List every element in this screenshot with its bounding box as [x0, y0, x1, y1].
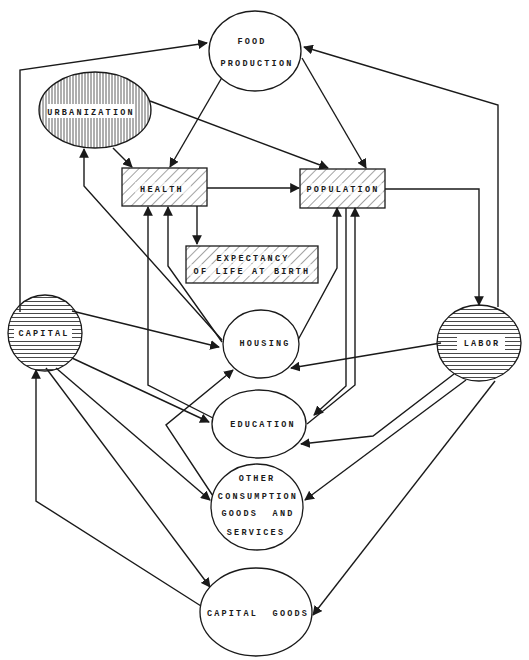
- node-labor[interactable]: LABOR: [437, 305, 521, 381]
- edge-labor-to-education: [301, 374, 454, 444]
- edge-education-to-health: [148, 207, 213, 418]
- edge-population-to-education: [314, 208, 346, 415]
- edge-labor-to-housing: [291, 343, 441, 368]
- edge-labor-to-capitalgoods: [313, 381, 495, 615]
- education-label: EDUCATION: [230, 420, 296, 430]
- node-population[interactable]: POPULATION: [300, 169, 385, 208]
- node-education[interactable]: EDUCATION: [212, 390, 306, 458]
- food-label-2: PRODUCTION: [220, 59, 293, 69]
- capital-goods-label: CAPITAL GOODS: [207, 609, 309, 619]
- expectancy-label-2: OF LIFE AT BIRTH: [194, 267, 311, 277]
- edge-capitalgoods-to-capital: [36, 370, 201, 606]
- edge-capital-to-education: [72, 358, 209, 422]
- other-label-4: SERVICES: [227, 528, 285, 538]
- labor-label: LABOR: [464, 339, 501, 349]
- node-capital[interactable]: CAPITAL: [8, 295, 82, 371]
- food-label-1: FOOD: [237, 37, 266, 47]
- edge-urbanization-to-health: [113, 148, 132, 167]
- node-urbanization[interactable]: URBANIZATION: [39, 72, 151, 148]
- edge-capital-to-other: [56, 368, 210, 500]
- expectancy-label-1: EXPECTANCY: [216, 254, 289, 264]
- housing-label: HOUSING: [239, 339, 290, 349]
- other-label-1: OTHER: [239, 474, 276, 484]
- edge-capital-to-capitalgoods: [46, 368, 210, 587]
- other-label-3: GOODS AND: [221, 509, 294, 519]
- edge-capital-to-housing: [72, 311, 219, 347]
- edge-food-to-population: [302, 58, 366, 168]
- edge-labor-to-other: [305, 380, 466, 500]
- node-health[interactable]: HEALTH: [122, 168, 207, 206]
- health-label: HEALTH: [140, 185, 184, 195]
- edge-urbanization-to-population: [150, 101, 328, 168]
- node-food-production[interactable]: FOOD PRODUCTION: [209, 11, 301, 91]
- node-other-consumption[interactable]: OTHER CONSUMPTION GOODS AND SERVICES: [211, 464, 303, 550]
- other-label-2: CONSUMPTION: [218, 492, 298, 502]
- population-label: POPULATION: [306, 185, 379, 195]
- urbanization-label: URBANIZATION: [47, 108, 135, 118]
- node-capital-goods[interactable]: CAPITAL GOODS: [200, 568, 312, 656]
- diagram-svg: FOOD PRODUCTION URBANIZATION HEALTH POPU…: [0, 0, 529, 660]
- node-housing[interactable]: HOUSING: [223, 310, 299, 378]
- capital-label: CAPITAL: [18, 329, 69, 339]
- causal-diagram: FOOD PRODUCTION URBANIZATION HEALTH POPU…: [0, 0, 529, 660]
- edge-education-to-population: [307, 208, 355, 424]
- edge-population-to-labor: [385, 189, 479, 305]
- node-life-expectancy[interactable]: EXPECTANCY OF LIFE AT BIRTH: [186, 246, 318, 283]
